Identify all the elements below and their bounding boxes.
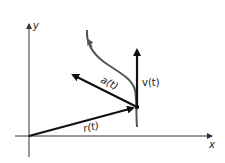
y-axis-label: y [32,20,40,31]
point-on-curve [135,105,139,109]
position-vector [29,108,133,136]
position-vector-label: r(t) [82,120,100,134]
velocity-vector-label: v(t) [142,77,160,88]
x-axis-label: x [208,139,215,150]
motion-vectors-diagram: y x r(t) a(t) v(t) [0,0,225,163]
